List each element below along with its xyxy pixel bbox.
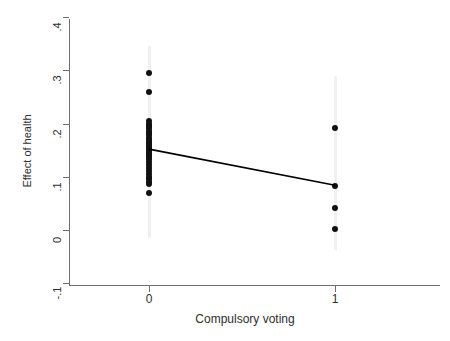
data-point <box>146 190 152 196</box>
fitted-regression-line <box>0 0 450 341</box>
y-axis-tick-label: .4 <box>51 16 63 38</box>
y-axis-tick <box>63 70 69 71</box>
x-axis-title: Compulsory voting <box>150 312 340 326</box>
data-point <box>332 125 338 131</box>
y-axis-tick <box>63 17 69 18</box>
y-axis-tick-label: 0 <box>51 229 63 251</box>
data-point <box>146 181 152 187</box>
range-band <box>334 76 337 250</box>
y-axis-tick <box>63 177 69 178</box>
x-axis-tick-label: 0 <box>137 292 161 306</box>
y-axis-tick-label: .1 <box>51 176 63 198</box>
x-axis-tick-label: 1 <box>323 292 347 306</box>
y-axis-title: Effect of health <box>21 81 33 221</box>
y-axis-tick-label: .2 <box>51 123 63 145</box>
data-point <box>332 226 338 232</box>
y-axis-tick <box>63 283 69 284</box>
x-axis-line <box>69 285 440 286</box>
data-point <box>146 70 152 76</box>
y-axis-tick <box>63 124 69 125</box>
y-axis-tick-label: -.1 <box>51 282 63 304</box>
data-point <box>332 205 338 211</box>
scatter-plot-figure: -.10.1.2.3.4 01 Effect of health Compuls… <box>0 0 450 341</box>
y-axis-tick <box>63 230 69 231</box>
data-point <box>146 89 152 95</box>
y-axis-line <box>69 19 70 286</box>
data-point <box>332 183 338 189</box>
y-axis-tick-label: .3 <box>51 69 63 91</box>
